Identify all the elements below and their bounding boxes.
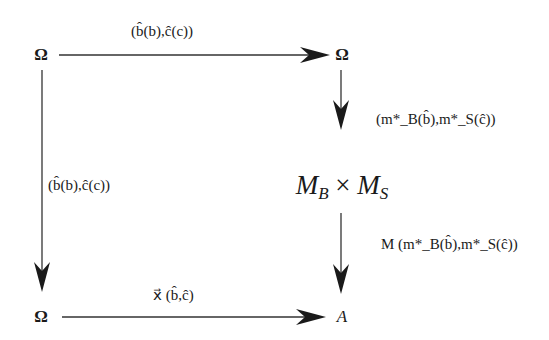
node-omega-top-left: Ω <box>34 45 48 65</box>
ms-letter: M <box>357 170 380 200</box>
node-omega-top-right: Ω <box>335 45 349 65</box>
node-mb-times-ms: MB × MS <box>296 170 389 205</box>
arrow-right-lower <box>333 213 349 294</box>
arrow-right-upper <box>333 70 349 130</box>
label-right-lower-edge: M (m*_B(b̂),m*_S(ĉ)) <box>381 236 518 253</box>
mb-subscript: B <box>318 184 328 203</box>
mb-letter: M <box>296 170 319 200</box>
label-bottom-edge: x⃗ (b̂,ĉ) <box>153 286 194 304</box>
ms-subscript: S <box>380 184 389 203</box>
arrow-bottom <box>62 309 326 325</box>
node-a-bottom-right: A <box>337 307 347 327</box>
arrows-layer <box>0 0 549 340</box>
arrow-top <box>59 47 330 63</box>
label-top-edge: (b̂(b),ĉ(c)) <box>131 23 193 40</box>
label-left-edge: (b̂(b),ĉ(c)) <box>48 177 110 194</box>
label-right-upper-edge: (m*_B(b̂),m*_S(ĉ)) <box>376 111 496 128</box>
node-omega-bottom-left: Ω <box>34 307 48 327</box>
times-symbol: × <box>329 170 358 200</box>
